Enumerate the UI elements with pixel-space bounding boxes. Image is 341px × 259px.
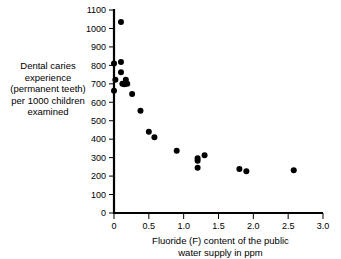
data-point [202, 152, 208, 158]
data-point [236, 166, 242, 172]
x-axis-title: Fluoride (F) content of the publicwater … [152, 235, 289, 258]
x-axis-title-line: Fluoride (F) content of the public [152, 235, 289, 246]
y-tick-label: 1100 [87, 5, 106, 15]
y-axis-label-line: per 1000 children [11, 95, 84, 106]
data-point [112, 77, 118, 83]
data-point [195, 158, 201, 164]
data-point [243, 168, 249, 174]
y-tick-label: 100 [91, 190, 106, 200]
x-tick-label: 2.0 [247, 221, 260, 231]
y-axis-label-line: Dental caries [20, 60, 76, 71]
y-tick-label: 0 [101, 208, 106, 218]
y-tick-label: 1000 [86, 24, 106, 34]
y-axis-label: Dental cariesexperience(permanent teeth)… [10, 60, 86, 117]
data-point [118, 19, 124, 25]
y-tick-label: 800 [91, 61, 106, 71]
data-point [118, 69, 124, 75]
data-point [195, 165, 201, 171]
x-tick-label: 2.5 [282, 221, 295, 231]
x-axis-title-line: water supply in ppm [177, 247, 263, 258]
data-point [111, 88, 117, 94]
data-point [118, 59, 124, 65]
x-tick-label: 0 [111, 221, 116, 231]
data-points [111, 19, 297, 174]
data-point [174, 148, 180, 154]
chart-container: Dental cariesexperience(permanent teeth)… [0, 0, 341, 259]
y-axis-label-line: examined [27, 106, 68, 117]
data-point [146, 129, 152, 135]
y-axis-label-line: experience [25, 72, 71, 83]
y-tick-label: 600 [91, 98, 106, 108]
x-tick-label: 1.5 [212, 221, 225, 231]
x-tick-label: 0.5 [143, 221, 156, 231]
data-point [151, 134, 157, 140]
y-tick-label: 400 [91, 134, 106, 144]
data-point [121, 81, 127, 87]
data-point [111, 61, 117, 67]
y-axis-ticks: 010020030040050060070080090010001100 [86, 5, 114, 218]
scatter-plot: Dental cariesexperience(permanent teeth)… [0, 0, 341, 259]
x-axis-ticks: 00.51.01.52.02.53.0 [111, 213, 329, 231]
y-tick-label: 900 [91, 42, 106, 52]
y-tick-label: 700 [91, 79, 106, 89]
x-tick-label: 3.0 [317, 221, 330, 231]
data-point [137, 108, 143, 114]
x-tick-label: 1.0 [177, 221, 190, 231]
data-point [129, 91, 135, 97]
y-tick-label: 300 [91, 153, 106, 163]
y-tick-label: 200 [91, 171, 106, 181]
y-axis-label-line: (permanent teeth) [10, 83, 86, 94]
data-point [291, 167, 297, 173]
y-tick-label: 500 [91, 116, 106, 126]
